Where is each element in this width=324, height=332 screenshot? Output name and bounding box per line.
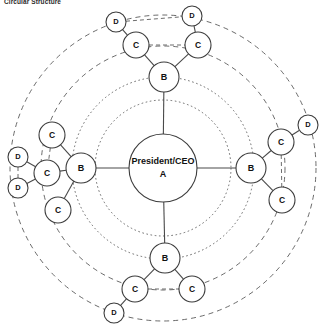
node-label-B_left: B (78, 163, 85, 173)
link-D_top_left-to-D_top_right (126, 17, 182, 21)
link-B_left-to-C_left_middle (60, 170, 66, 171)
node-label-B_top: B (161, 72, 168, 82)
node-label-D_right: D (305, 120, 311, 129)
node-label-A-line2: A (160, 169, 167, 179)
node-B_top[interactable]: B (149, 62, 179, 92)
node-A[interactable]: President/CEOA (129, 134, 197, 202)
circular-org-chart: Circular Structure President/CEOABBBBCCC… (0, 0, 324, 332)
link-C_left_middle-to-D_left_upper (27, 162, 36, 167)
node-D_top_left[interactable]: D (106, 12, 126, 32)
node-label-C_left_middle: C (44, 168, 50, 178)
link-B_right-to-C_right_upper (262, 151, 271, 159)
node-B_left[interactable]: B (66, 153, 96, 183)
node-C_bottom_left[interactable]: C (122, 276, 148, 302)
link-B_top-to-C_top_right (175, 54, 189, 67)
node-label-C_right_lower: C (279, 195, 285, 205)
link-C_right_upper-to-C_right_lower (281, 155, 282, 187)
node-label-C_top_right: C (195, 40, 201, 50)
node-C_left_middle[interactable]: C (34, 160, 60, 186)
link-C_top_left-to-D_top_left (123, 30, 128, 36)
node-label-D_left_upper: D (15, 152, 21, 161)
link-B_bottom-to-C_bottom_left (144, 269, 155, 280)
node-B_bottom[interactable]: B (150, 243, 180, 273)
link-B_left-to-C_left_upper (61, 145, 72, 157)
node-C_bottom_right[interactable]: C (179, 276, 205, 302)
node-D_bottom[interactable]: D (104, 303, 124, 323)
link-B_right-to-C_right_lower (261, 179, 273, 191)
node-label-C_left_upper: C (49, 130, 55, 140)
node-C_left_upper[interactable]: C (39, 122, 65, 148)
node-label-D_top_right: D (189, 11, 195, 20)
node-C_right_lower[interactable]: C (269, 187, 295, 213)
link-B_top-to-C_top_left (145, 55, 155, 66)
org-chart-canvas: President/CEOABBBBCCCCCCCCCDDDDDD (0, 0, 324, 332)
node-label-D_top_left: D (113, 17, 119, 26)
node-D_right[interactable]: D (298, 115, 318, 135)
node-label-C_bottom_left: C (132, 284, 138, 294)
node-label-C_right_upper: C (278, 137, 284, 147)
link-C_left_upper-to-C_left_middle (49, 148, 51, 160)
link-C_left_middle-to-D_left_lower (27, 179, 36, 183)
node-C_top_right[interactable]: C (185, 32, 211, 58)
link-B_bottom-to-C_bottom_right (175, 269, 184, 279)
node-C_left_lower[interactable]: C (45, 197, 71, 223)
node-label-B_bottom: B (162, 253, 169, 263)
node-D_left_lower[interactable]: D (8, 178, 28, 198)
link-B_left-to-C_left_lower (64, 181, 74, 198)
node-circle-A (129, 134, 197, 202)
node-D_top_right[interactable]: D (182, 6, 202, 26)
node-label-A-line1: President/CEO (131, 156, 194, 166)
node-C_top_left[interactable]: C (123, 32, 149, 58)
node-B_right[interactable]: B (236, 153, 266, 183)
node-label-D_bottom: D (111, 308, 117, 317)
node-label-D_left_lower: D (15, 183, 21, 192)
node-label-C_bottom_right: C (189, 284, 195, 294)
node-C_right_upper[interactable]: C (268, 129, 294, 155)
node-label-C_left_lower: C (55, 205, 61, 215)
node-label-C_top_left: C (133, 40, 139, 50)
link-A-to-B_bottom (164, 202, 165, 243)
link-C_bottom_left-to-D_bottom (121, 299, 127, 306)
link-C_right_upper-to-D_right (292, 130, 300, 135)
link-C_top_right-to-D_top_right (194, 26, 195, 32)
node-D_left_upper[interactable]: D (8, 147, 28, 167)
node-label-B_right: B (248, 163, 255, 173)
